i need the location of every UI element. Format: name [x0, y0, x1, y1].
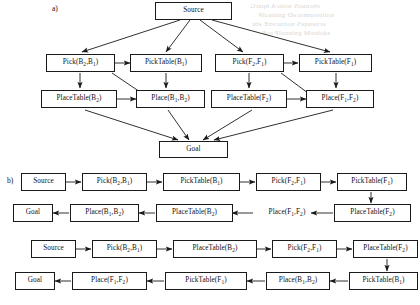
node-label: PickTable(F1): [185, 277, 226, 284]
node-label: Place(B1,B2): [279, 277, 317, 284]
node-label: Place(B1,B2): [151, 95, 189, 102]
node-label: PlaceTable(B2): [172, 209, 217, 216]
node-label: Source: [183, 7, 204, 14]
node-label: PlaceTable(F2): [350, 209, 394, 216]
node-label: PlaceTable(B2): [192, 245, 237, 252]
node-label: Pick(B2,B1): [107, 245, 142, 252]
node-b-r1-pick-b2b1[interactable]: Pick(B2,B1): [82, 173, 147, 191]
node-b-r4-place-b1b2[interactable]: Place(B1,B2): [266, 272, 330, 290]
node-label: Pick(B2,B1): [97, 178, 132, 185]
node-label: Pick(F2,F1): [272, 178, 306, 185]
node-label: Goal: [28, 277, 42, 284]
node-a-picktable-b1[interactable]: PickTable(B1): [130, 54, 202, 72]
node-a-placetable-b2[interactable]: PlaceTable(B2): [41, 90, 117, 108]
node-b-r3-pick-f2f1[interactable]: Pick(F2,F1): [272, 240, 337, 258]
node-label: Goal: [186, 146, 200, 153]
edge-place-f1f2-to-goal: [214, 110, 333, 140]
node-a-placetable-f2[interactable]: PlaceTable(F2): [211, 90, 287, 108]
node-label: PickTable(F1): [315, 59, 356, 66]
node-label: PlaceTable(F2): [363, 245, 407, 252]
node-a-place-b1b2[interactable]: Place(B1,B2): [136, 90, 205, 108]
node-label: PickTable(B1): [362, 277, 404, 284]
node-a-goal[interactable]: Goal: [159, 141, 228, 158]
node-label: Pick(F2,F1): [233, 59, 267, 66]
node-a-pick-f2f1[interactable]: Pick(F2,F1): [215, 54, 284, 72]
node-b-r4-picktable-b1[interactable]: PickTable(B1): [349, 272, 418, 290]
node-label: PickTable(B1): [180, 178, 222, 185]
node-b-r1-picktable-f1[interactable]: PickTable(F1): [337, 173, 407, 191]
edge-source-to-pick-f2f1: [200, 20, 243, 52]
figure-canvas: ebcnuoS noitcA hparG noitisopmoceD gninn…: [0, 0, 420, 305]
node-label: PlaceTable(F2): [227, 95, 271, 102]
node-a-pick-b2b1[interactable]: Pick(B2,B1): [46, 54, 115, 72]
panel-label-a: a): [52, 4, 58, 13]
node-b-r2-placetable-f2[interactable]: PlaceTable(F2): [334, 204, 411, 222]
edge-source-to-pick-b2b1: [82, 20, 180, 52]
node-b-r1-source[interactable]: Source: [21, 173, 66, 191]
node-b-r1-pick-f2f1[interactable]: Pick(F2,F1): [256, 173, 321, 191]
node-b-r4-goal[interactable]: Goal: [15, 272, 55, 290]
node-label: Goal: [26, 209, 40, 216]
node-a-picktable-f1[interactable]: PickTable(F1): [299, 54, 372, 72]
node-b-r2-place-f1f2[interactable]: Place(F1,F2): [254, 204, 320, 222]
panel-label-b: b): [7, 176, 13, 185]
node-label: Place(B1,B2): [85, 209, 123, 216]
node-label: PlaceTable(B2): [56, 95, 101, 102]
node-label: Place(F1,F2): [322, 95, 359, 102]
edge-placetable-f2-to-goal: [203, 110, 252, 140]
node-a-source[interactable]: Source: [155, 2, 232, 20]
edge-placetable-b2-to-goal: [85, 110, 178, 140]
node-b-r2-place-b1b2[interactable]: Place(B1,B2): [70, 204, 139, 222]
node-b-r3-pick-b2b1[interactable]: Pick(B2,B1): [92, 240, 157, 258]
node-b-r4-place-f1f2[interactable]: Place(F1,F2): [72, 272, 147, 290]
node-b-r3-placetable-f2[interactable]: PlaceTable(F2): [353, 240, 418, 258]
node-label: PickTable(F1): [351, 178, 392, 185]
edge-place-b1b2-to-goal: [168, 110, 189, 140]
node-b-r3-placetable-b2[interactable]: PlaceTable(B2): [173, 240, 257, 258]
node-b-r2-goal[interactable]: Goal: [13, 204, 53, 222]
node-label: Place(F1,F2): [91, 277, 128, 284]
edge-source-to-picktable-f1: [212, 20, 330, 52]
node-label: Pick(F2,F1): [288, 245, 322, 252]
node-b-r1-picktable-b1[interactable]: PickTable(B1): [163, 173, 240, 191]
node-label: PickTable(B1): [145, 59, 187, 66]
node-b-r4-picktable-f1[interactable]: PickTable(F1): [165, 272, 247, 290]
node-a-place-f1f2[interactable]: Place(F1,F2): [306, 90, 374, 108]
node-label: Source: [43, 245, 64, 252]
edge-source-to-picktable-b1: [166, 20, 190, 52]
node-label: Source: [33, 178, 54, 185]
node-label: Pick(B2,B1): [63, 59, 98, 66]
node-b-r2-placetable-b2[interactable]: PlaceTable(B2): [156, 204, 233, 222]
node-label: Place(F1,F2): [269, 209, 306, 216]
node-b-r3-source[interactable]: Source: [31, 240, 76, 258]
